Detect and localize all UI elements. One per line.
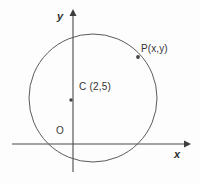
x-axis-arrowhead	[184, 140, 191, 147]
circle-diagram: y x O C (2,5) P(x,y)	[0, 0, 200, 184]
origin-label: O	[56, 126, 64, 136]
y-axis-label: y	[57, 11, 63, 22]
x-axis-label: x	[174, 149, 180, 160]
center-point-label: C (2,5)	[79, 82, 111, 92]
diagram-canvas	[0, 0, 200, 184]
circumference-point-marker	[136, 55, 140, 59]
center-point-marker	[69, 98, 72, 101]
circle-shape	[29, 34, 157, 162]
y-axis-arrowhead	[70, 9, 77, 16]
circumference-point-label: P(x,y)	[141, 44, 168, 54]
